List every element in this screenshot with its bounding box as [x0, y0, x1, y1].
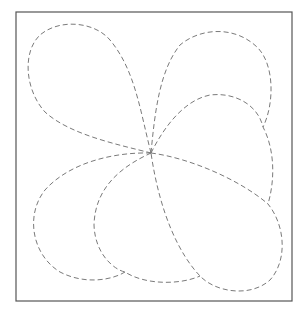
petal-bottom-right — [151, 153, 282, 291]
petal-top-left — [28, 24, 151, 153]
petal-middle-right — [151, 95, 273, 204]
petal-bottom-center — [94, 153, 200, 282]
diagram-frame — [16, 12, 292, 301]
petal-group — [28, 24, 282, 291]
petal-bottom-left — [34, 153, 151, 280]
petal-top-right — [151, 32, 271, 154]
petal-diagram-canvas — [0, 0, 305, 314]
